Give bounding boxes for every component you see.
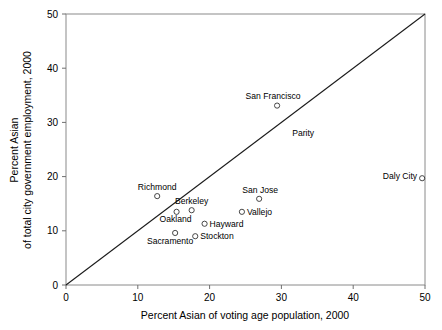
x-tick-label: 20 — [204, 292, 216, 303]
data-point-label: Vallejo — [247, 207, 272, 217]
y-axis-title-line1: Percent Asian — [8, 117, 20, 182]
data-point-label: Stockton — [200, 231, 234, 241]
x-tick-label: 0 — [63, 292, 69, 303]
y-tick-label: 50 — [47, 9, 59, 20]
y-tick-label: 30 — [47, 117, 59, 128]
data-point-label: Berkeley — [175, 196, 209, 206]
y-tick-label: 40 — [47, 63, 59, 74]
data-point-marker — [189, 208, 194, 213]
annotation-parity: Parity — [292, 128, 315, 138]
y-tick-label: 20 — [47, 171, 59, 182]
data-point-marker — [193, 234, 198, 239]
data-point-label: Hayward — [210, 219, 244, 229]
scatter-plot-figure: 0102030405001020304050 San FranciscoDaly… — [0, 0, 442, 330]
x-tick-label: 10 — [132, 292, 144, 303]
data-points: San FranciscoDaly CityRichmondSan JoseBe… — [138, 91, 425, 246]
parity-line — [66, 14, 425, 285]
x-tick-label: 30 — [276, 292, 288, 303]
chart-annotations: Parity — [292, 128, 315, 138]
y-axis-title-line2: of total city government employment, 200… — [21, 51, 33, 249]
data-point-label: Oakland — [160, 214, 192, 224]
y-tick-label: 10 — [47, 225, 59, 236]
plot-canvas: 0102030405001020304050 San FranciscoDaly… — [0, 0, 442, 330]
data-point-marker — [173, 230, 178, 235]
data-point-marker — [274, 103, 279, 108]
y-tick-label: 0 — [52, 280, 58, 291]
data-point-marker — [239, 209, 244, 214]
x-axis-title: Percent Asian of voting age population, … — [141, 309, 350, 321]
data-point-marker — [420, 176, 425, 181]
data-point-label: San Jose — [242, 185, 278, 195]
x-tick-label: 50 — [419, 292, 431, 303]
parity-reference-line — [66, 14, 425, 285]
data-point-label: Sacramento — [147, 236, 194, 246]
data-point-label: Daly City — [383, 171, 418, 181]
data-point-marker — [155, 194, 160, 199]
data-point-label: Richmond — [138, 182, 177, 192]
data-point-marker — [257, 196, 262, 201]
data-point-label: San Francisco — [246, 91, 301, 101]
x-tick-label: 40 — [348, 292, 360, 303]
data-point-marker — [202, 221, 207, 226]
